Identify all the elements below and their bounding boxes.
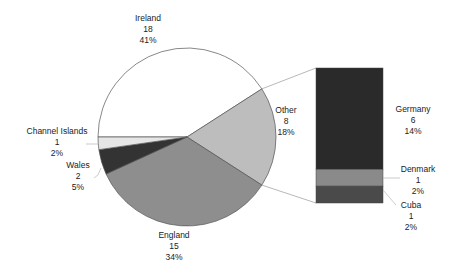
svg-text:1: 1	[55, 137, 60, 147]
pie	[98, 48, 276, 226]
svg-text:2%: 2%	[412, 186, 425, 196]
bar-segment-germany	[316, 68, 383, 169]
label-wales: Wales25%	[66, 160, 89, 192]
label-england: England1534%	[158, 230, 189, 262]
svg-text:34%: 34%	[165, 252, 182, 262]
svg-text:5%: 5%	[72, 182, 85, 192]
svg-text:18: 18	[143, 24, 153, 34]
svg-text:Ireland: Ireland	[135, 13, 161, 23]
bar-of-pie-chart: Ireland1841%Other818%England1534%Wales25…	[0, 0, 456, 279]
leader-cuba	[383, 190, 396, 205]
label-cuba: Cuba12%	[401, 200, 422, 232]
svg-text:Denmark: Denmark	[401, 164, 436, 174]
svg-text:1: 1	[409, 211, 414, 221]
svg-text:8: 8	[284, 116, 289, 126]
svg-text:2: 2	[76, 171, 81, 181]
label-denmark: Denmark12%	[401, 164, 436, 196]
svg-text:6: 6	[411, 115, 416, 125]
svg-text:Wales: Wales	[66, 160, 89, 170]
svg-text:14%: 14%	[404, 126, 421, 136]
svg-text:2%: 2%	[51, 148, 64, 158]
stacked-bar	[316, 68, 383, 203]
connector-line-bottom	[262, 185, 316, 203]
svg-text:18%: 18%	[277, 127, 294, 137]
svg-text:Cuba: Cuba	[401, 200, 422, 210]
connector-line-top	[262, 68, 316, 89]
svg-text:2%: 2%	[405, 222, 418, 232]
svg-text:Other: Other	[275, 105, 296, 115]
label-channel-islands: Channel Islands12%	[27, 126, 88, 158]
bar-segment-cuba	[316, 186, 383, 203]
svg-text:Channel Islands: Channel Islands	[27, 126, 88, 136]
label-germany: Germany614%	[396, 104, 432, 136]
svg-text:41%: 41%	[139, 35, 156, 45]
leader-wales	[94, 168, 101, 178]
svg-text:England: England	[158, 230, 189, 240]
label-other: Other818%	[275, 105, 296, 137]
label-ireland: Ireland1841%	[135, 13, 161, 45]
bar-segment-denmark	[316, 169, 383, 186]
svg-text:Germany: Germany	[396, 104, 432, 114]
svg-text:15: 15	[169, 241, 179, 251]
svg-text:1: 1	[416, 175, 421, 185]
